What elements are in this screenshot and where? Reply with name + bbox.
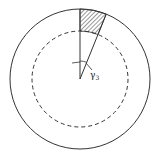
hatched-sector [80, 9, 106, 35]
angle-tick-right [86, 63, 92, 70]
angle-tick-left [72, 62, 80, 63]
angle-label: γ3 [90, 70, 99, 81]
diagram-canvas: γ3 [0, 0, 158, 154]
angle-arc [80, 61, 87, 62]
